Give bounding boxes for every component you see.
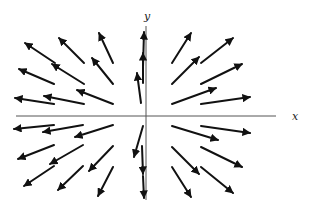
vector-arrow <box>58 166 83 190</box>
vector-arrow <box>19 69 54 84</box>
vector-field-diagram: x y <box>0 0 312 212</box>
vector-arrow <box>201 97 250 104</box>
vector-arrow <box>52 64 84 84</box>
vector-arrow <box>201 64 242 84</box>
vector-arrow <box>201 167 233 193</box>
vector-arrow <box>172 33 191 63</box>
vector-arrow <box>24 166 54 186</box>
vector-arrow <box>14 125 54 129</box>
vector-arrows <box>14 32 250 198</box>
vector-arrow <box>142 146 143 174</box>
vector-arrow <box>99 33 113 63</box>
vector-arrow <box>172 147 199 174</box>
vector-arrow <box>201 126 250 133</box>
x-axis-label: x <box>292 110 299 123</box>
vector-arrow <box>172 88 216 104</box>
vector-arrow <box>18 145 54 159</box>
vector-arrow <box>89 146 113 171</box>
y-axis-label: y <box>143 10 151 23</box>
vector-arrow <box>201 38 233 63</box>
vector-arrow <box>75 125 113 137</box>
vector-arrow <box>137 73 141 103</box>
vector-arrow <box>50 145 83 164</box>
vector-arrow <box>143 176 144 198</box>
vector-arrow <box>25 43 55 63</box>
vector-arrow <box>172 57 199 84</box>
vector-arrow <box>98 167 113 196</box>
vector-arrow <box>15 98 54 104</box>
vector-arrow <box>201 147 242 167</box>
vector-arrow <box>92 58 113 84</box>
vector-arrow <box>59 38 84 63</box>
vector-arrow <box>143 32 144 67</box>
vector-arrow <box>172 167 191 197</box>
vector-arrow <box>77 90 113 104</box>
